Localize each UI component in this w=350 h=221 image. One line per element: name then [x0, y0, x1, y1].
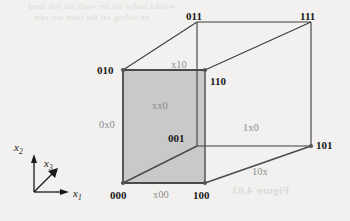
vertex-dot-010	[121, 68, 125, 72]
vertex-label-000: 000	[110, 190, 127, 201]
vertex-label-111: 111	[300, 11, 315, 22]
shaded-face-xx0	[123, 70, 205, 183]
axis-label-x1-sub: 1	[78, 193, 82, 202]
axis-line-x3	[34, 173, 53, 192]
axis-arrow-x1	[60, 189, 69, 195]
vertex-dot-101	[309, 144, 313, 148]
axis-label-x1: x1	[73, 188, 82, 202]
edge-label-1x0: 1x0	[243, 123, 259, 134]
vertex-label-110: 110	[210, 76, 226, 87]
cube-drawing	[0, 0, 350, 221]
vertex-label-010: 010	[97, 65, 114, 76]
edge-label-0x0: 0x0	[99, 120, 115, 131]
edge-label-x00: x00	[153, 190, 169, 201]
edge-label-10x: 10x	[252, 167, 268, 178]
vertex-label-101: 101	[316, 140, 333, 151]
axis-label-x3: x3	[44, 158, 53, 172]
face-label-xx0: xx0	[152, 101, 168, 112]
edge-110-111	[205, 22, 311, 70]
axis-arrow-x2	[31, 154, 37, 163]
axis-label-x2-sub: 2	[19, 147, 23, 156]
axis-label-x3-sub: 3	[49, 163, 53, 172]
axis-label-x2: x2	[14, 142, 23, 156]
vertex-label-011: 011	[186, 11, 202, 22]
vertex-label-100: 100	[193, 190, 210, 201]
edge-label-x10: x10	[171, 60, 187, 71]
vertex-dot-000	[121, 181, 125, 185]
boolean-cube-figure: wonka hadve bit the wath tab not dand ne…	[0, 0, 350, 221]
vertex-label-001: 001	[168, 133, 185, 144]
vertex-dot-100	[203, 181, 207, 185]
vertex-dot-110	[203, 68, 207, 72]
